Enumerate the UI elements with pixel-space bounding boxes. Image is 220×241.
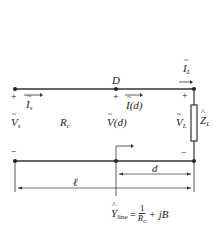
node-d-label: D (112, 75, 120, 86)
line-plus-sign: + (113, 92, 119, 102)
source-current-label: Is (26, 99, 32, 112)
load-current-label: IL (183, 63, 191, 76)
line-resistance-label: Rc (60, 117, 70, 130)
source-voltage-label: Vs (11, 117, 20, 130)
source-bottom-terminal (13, 159, 17, 163)
length-ell-label: ℓ (73, 177, 78, 188)
load-plus-sign: + (182, 91, 188, 101)
line-voltage-label: V(d) (107, 117, 127, 128)
line-current-label: I(d) (126, 100, 143, 111)
distance-d-label: d (152, 163, 158, 174)
source-plus-sign: + (11, 92, 17, 102)
source-minus-sign: − (11, 147, 17, 157)
admittance-formula: Yline = 1Rc + jB (111, 204, 168, 226)
load-voltage-label: VL (176, 117, 187, 130)
load-impedance-label: ZL (200, 115, 210, 128)
load-minus-sign: − (181, 148, 187, 158)
load-impedance-resistor-icon (191, 105, 197, 141)
